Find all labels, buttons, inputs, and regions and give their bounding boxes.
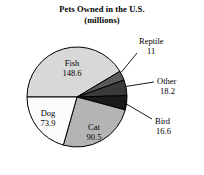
slice-label-fish-value: 148.6 <box>42 68 102 78</box>
callout-label-other: Other 18.2 <box>157 76 197 96</box>
callout-label-reptile-name: Reptile <box>139 36 179 46</box>
slice-label-dog-name: Dog <box>26 108 70 118</box>
callout-label-bird-value: 16.6 <box>155 126 195 136</box>
callout-label-reptile: Reptile 11 <box>139 36 179 56</box>
slice-label-cat: Cat 90.5 <box>72 122 116 142</box>
callout-label-other-name: Other <box>157 76 197 86</box>
callout-label-bird-name: Bird <box>155 116 195 126</box>
callout-label-reptile-value: 11 <box>139 46 179 56</box>
slice-label-fish-name: Fish <box>42 58 102 68</box>
callout-leader-lines <box>122 53 155 119</box>
slice-label-cat-value: 90.5 <box>72 132 116 142</box>
callout-label-bird: Bird 16.6 <box>155 116 195 136</box>
slice-label-fish: Fish 148.6 <box>42 58 102 78</box>
leader-line-other <box>126 82 155 87</box>
slice-label-cat-name: Cat <box>72 122 116 132</box>
leader-line-reptile <box>122 53 138 72</box>
callout-label-other-value: 18.2 <box>157 86 197 96</box>
pie-chart-figure: Pets Owned in the U.S. (millions) Fish 1… <box>0 0 204 175</box>
slice-label-dog-value: 73.9 <box>26 118 70 128</box>
slice-label-dog: Dog 73.9 <box>26 108 70 128</box>
leader-line-bird <box>126 104 153 120</box>
